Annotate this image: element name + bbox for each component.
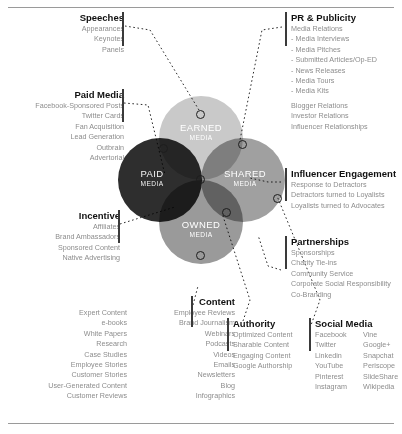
section-pr-publicity-title: PR & Publicity (291, 12, 402, 24)
section-incentive: Incentive Affiliates Brand Ambassadors S… (0, 210, 125, 264)
list-item: - Media Pitches (291, 45, 402, 55)
section-partnerships-title: Partnerships (291, 236, 402, 248)
list-item: Appearances (0, 24, 124, 34)
list-item: Panels (0, 45, 124, 55)
section-content: Content Expert Content e-books White Pap… (8, 296, 240, 402)
section-authority-title: Authority (233, 318, 313, 330)
list-item: Detractors turned to Loyalists (291, 190, 402, 200)
list-item: Twitter (315, 340, 355, 350)
list-item: Influencer Relationships (291, 122, 402, 132)
list-item: Google+ (363, 340, 402, 350)
section-paid-media: Paid Media Facebook-Sponsored Posts Twit… (0, 89, 129, 163)
content-column-2: Employee Reviews Brand Journalism Webina… (135, 308, 240, 402)
list-item: Charity Tie-ins (291, 258, 402, 268)
list-item: Infographics (135, 391, 235, 401)
list-item: e-books (17, 318, 127, 328)
peso-venn-diagram: EARNED MEDIA SHARED MEDIA OWNED MEDIA PA… (118, 96, 286, 296)
accent-bar-authority (227, 318, 229, 351)
section-social-media: Social Media Facebook Twitter Linkedin Y… (310, 318, 402, 392)
list-item: Emails (135, 360, 235, 370)
list-item: Advertorial (0, 153, 124, 163)
list-item: Facebook (315, 330, 355, 340)
top-divider (8, 7, 394, 8)
list-item: Instagram (315, 382, 355, 392)
list-item: - Media Interviews (291, 34, 402, 44)
list-item: Co-Branding (291, 290, 402, 300)
list-item: Employee Stories (17, 360, 127, 370)
list-item: Videos (135, 350, 235, 360)
section-partnerships: Partnerships Sponsorships Charity Tie-in… (286, 236, 402, 300)
list-item: Snapchat (363, 351, 402, 361)
list-item: White Papers (17, 329, 127, 339)
list-item: Affiliates (0, 222, 120, 232)
accent-bar-partnerships (285, 236, 287, 269)
list-item: Newsletters (135, 370, 235, 380)
list-item: Outbrain (0, 143, 124, 153)
node-owned-shared (222, 208, 231, 217)
list-item: Periscope (363, 361, 402, 371)
accent-bar-paid-media (122, 89, 124, 122)
node-earned-top (196, 110, 205, 119)
list-item: Blogger Relations (291, 101, 402, 111)
list-item: Native Advertising (0, 253, 120, 263)
list-item: Investor Relations (291, 111, 402, 121)
list-item: Customer Stories (17, 370, 127, 380)
list-item: Keynotes (0, 34, 124, 44)
section-paid-media-title: Paid Media (0, 89, 124, 101)
section-social-media-title: Social Media (315, 318, 402, 330)
list-item: Vine (363, 330, 402, 340)
list-item: - Media Kits (291, 86, 402, 96)
accent-bar-pr-publicity (285, 12, 287, 46)
accent-bar-content (191, 296, 193, 327)
section-influencer-engagement-title: Influencer Engagement (291, 168, 402, 180)
list-item: Engaging Content (233, 351, 313, 361)
list-item: Sharable Content (233, 340, 313, 350)
list-item: Facebook-Sponsored Posts (0, 101, 124, 111)
list-item: Podcasts (135, 339, 235, 349)
accent-bar-influencer-engagement (285, 168, 287, 201)
list-item: Webinars (135, 329, 235, 339)
accent-bar-speeches (122, 12, 124, 46)
accent-bar-incentive (118, 210, 120, 243)
bottom-divider (8, 423, 394, 424)
list-item: Wikipedia (363, 382, 402, 392)
section-speeches: Speeches Appearances Keynotes Panels (0, 12, 129, 55)
list-item: Community Service (291, 269, 402, 279)
list-item: User-Generated Content (17, 381, 127, 391)
list-item: - Submitted Articles/Op-ED (291, 55, 402, 65)
node-paid-owned (170, 208, 179, 217)
social-column-1: Facebook Twitter Linkedin YouTube Pinter… (315, 330, 355, 392)
list-item: - News Releases (291, 66, 402, 76)
list-item: Sponsored Content (0, 243, 120, 253)
node-shared-right (273, 194, 282, 203)
list-item: Response to Detractors (291, 180, 402, 190)
section-content-title: Content (8, 296, 240, 308)
node-owned-bottom (196, 251, 205, 260)
section-speeches-title: Speeches (0, 12, 124, 24)
list-item: Google Authorship (233, 361, 313, 371)
node-center (196, 175, 205, 184)
accent-bar-social-media (309, 318, 311, 351)
list-item: Corporate Social Responsibility (291, 279, 402, 289)
section-incentive-title: Incentive (0, 210, 120, 222)
list-item: Brand Ambassadors (0, 232, 120, 242)
list-item: SlideShare (363, 372, 402, 382)
section-authority: Authority Optimized Content Sharable Con… (228, 318, 313, 372)
list-item: Customer Reviews (17, 391, 127, 401)
list-item: Loyalists turned to Advocates (291, 201, 402, 211)
section-influencer-engagement: Influencer Engagement Response to Detrac… (286, 168, 402, 211)
list-item: - Media Tours (291, 76, 402, 86)
list-item: Case Studies (17, 350, 127, 360)
list-item: Twitter Cards (0, 111, 124, 121)
list-item: Research (17, 339, 127, 349)
list-item: Expert Content (17, 308, 127, 318)
list-item: Brand Journalism (135, 318, 235, 328)
list-item: Employee Reviews (135, 308, 235, 318)
section-pr-publicity: PR & Publicity Media Relations - Media I… (286, 12, 402, 132)
content-column-1: Expert Content e-books White Papers Rese… (17, 308, 127, 402)
social-column-2: Vine Google+ Snapchat Periscope SlideSha… (363, 330, 402, 392)
list-item: Optimized Content (233, 330, 313, 340)
list-item: YouTube (315, 361, 355, 371)
list-item: Linkedin (315, 351, 355, 361)
list-item: Sponsorships (291, 248, 402, 258)
